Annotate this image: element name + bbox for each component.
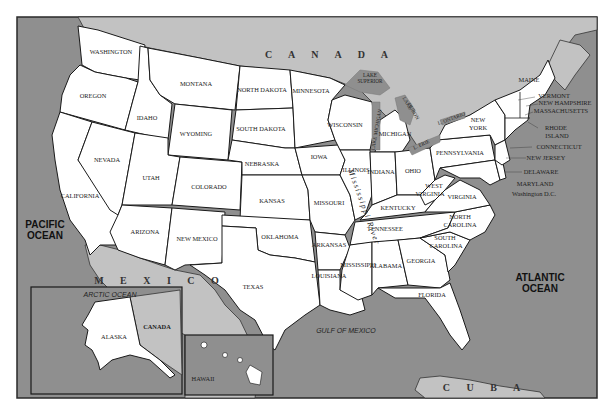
label-florida: FLORIDA (418, 291, 446, 298)
label-colorado: COLORADO (191, 183, 227, 190)
label-alaska-inset-canada: CANADA (143, 323, 171, 330)
us-map: C A N A D A M E X I C O C U B A PACIFIC … (0, 0, 615, 411)
label-michigan: MICHIGAN (379, 130, 412, 137)
label-virginia: VIRGINIA (447, 193, 476, 200)
label-missouri: MISSOURI (314, 199, 345, 206)
label-rhode-island-2: ISLAND (545, 132, 569, 139)
label-north-carolina-1: NORTH (449, 213, 471, 220)
state-iowa (295, 145, 345, 175)
label-arizona: ARIZONA (131, 228, 160, 235)
label-cuba: C U B A (443, 382, 527, 393)
label-connecticut: CONNECTICUT (536, 143, 581, 150)
label-wyoming: WYOMING (180, 130, 213, 137)
label-iowa: IOWA (311, 153, 328, 160)
label-new-hampshire: NEW HAMPSHIRE (539, 99, 592, 106)
label-west-virginia-1: WEST (425, 182, 442, 189)
label-indiana: INDIANA (367, 168, 395, 175)
label-north-carolina-2: CAROLINA (443, 221, 476, 228)
label-new-jersey: NEW JERSEY (527, 154, 566, 161)
label-north-dakota: NORTH DAKOTA (237, 86, 287, 93)
label-utah: UTAH (142, 174, 160, 181)
label-new-york-1: NEW (471, 116, 487, 123)
label-minnesota: MINNESOTA (292, 87, 330, 94)
label-massachusetts: MASSACHUSETTS (534, 107, 589, 114)
label-new-mexico: NEW MEXICO (176, 235, 218, 242)
label-west-virginia-2: VIRGINIA (415, 190, 444, 197)
label-superior-2: SUPERIOR (357, 78, 383, 84)
label-montana: MONTANA (180, 80, 213, 87)
label-hawaii: HAWAII (192, 375, 215, 382)
label-oregon: OREGON (80, 92, 107, 99)
label-illinois: ILLINOIS (343, 166, 370, 173)
label-pennsylvania: PENNSYLVANIA (436, 149, 484, 156)
label-pacific-2: OCEAN (27, 230, 63, 241)
label-canada: C A N A D A (265, 49, 395, 60)
label-maryland: MARYLAND (517, 180, 554, 187)
label-washington-dc: Washington D.C. (512, 190, 556, 197)
label-south-carolina-1: SOUTH (434, 234, 456, 241)
label-arkansas: ARKANSAS (312, 241, 347, 248)
label-mexico: M E X I C O (94, 275, 226, 286)
label-arctic-ocean: ARCTIC OCEAN (83, 291, 138, 298)
label-oklahoma: OKLAHOMA (261, 233, 299, 240)
label-california: CALIFORNIA (61, 192, 100, 199)
label-kentucky: KENTUCKY (380, 204, 416, 211)
label-tennessee: TENNESSEE (367, 225, 403, 232)
label-washington: WASHINGTON (90, 48, 133, 55)
label-atlantic-2: OCEAN (522, 283, 558, 294)
label-atlantic-1: ATLANTIC (515, 272, 564, 283)
label-nevada: NEVADA (94, 156, 121, 163)
label-georgia: GEORGIA (407, 257, 436, 264)
label-nebraska: NEBRASKA (245, 160, 280, 167)
label-maine: MAINE (519, 76, 540, 83)
label-alaska: ALASKA (101, 333, 127, 340)
label-idaho: IDAHO (137, 114, 158, 121)
label-louisiana: LOUISIANA (312, 272, 347, 279)
label-vermont: VERMONT (538, 92, 570, 99)
label-alabama: ALABAMA (370, 262, 403, 269)
label-rhode-island-1: RHODE (545, 124, 567, 131)
label-ohio: OHIO (405, 167, 421, 174)
hawaii-inset (185, 335, 273, 395)
label-pacific-1: PACIFIC (25, 219, 64, 230)
label-wisconsin: WISCONSIN (327, 121, 363, 128)
label-south-dakota: SOUTH DAKOTA (236, 125, 286, 132)
label-gulf: GULF OF MEXICO (316, 327, 376, 334)
label-kansas: KANSAS (259, 197, 285, 204)
label-delaware: DELAWARE (524, 168, 559, 175)
label-south-carolina-2: CAROLINA (429, 242, 462, 249)
label-new-york-2: YORK (469, 124, 487, 131)
label-texas: TEXAS (243, 283, 264, 290)
